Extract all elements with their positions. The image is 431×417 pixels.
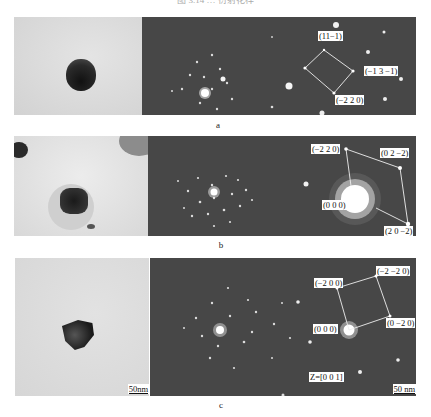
hkl-label: (0 0 0) bbox=[322, 200, 347, 210]
panel-caption-c: c bbox=[211, 400, 231, 410]
hkl-label: (−2 0 0) bbox=[314, 278, 343, 288]
hkl-label: (11−1) bbox=[318, 31, 343, 41]
particle-b bbox=[60, 188, 88, 214]
hkl-label: (−2 2 0) bbox=[335, 95, 364, 105]
scale-bar-bright-field: 50nm bbox=[128, 384, 149, 394]
panel-caption-a: a bbox=[208, 120, 228, 130]
panel-caption-b: b bbox=[211, 240, 231, 250]
bright-field-image-a bbox=[14, 17, 142, 115]
bright-field-image-b bbox=[14, 136, 148, 236]
diffraction-pattern-c: (−2 0 0) (−2 −2 0) (0 0 0) (0 −2 0) Z=[0… bbox=[150, 258, 416, 396]
hkl-label: (−2 −2 0) bbox=[376, 266, 410, 276]
hkl-label: (2 0 −2) bbox=[384, 226, 413, 236]
hkl-label: (−2 2 0) bbox=[311, 144, 340, 154]
hkl-label: (0 −2 0) bbox=[386, 318, 415, 328]
hkl-label: (0 0 0) bbox=[313, 324, 338, 334]
dark-region-top-right bbox=[119, 136, 148, 156]
particle-a bbox=[66, 59, 96, 91]
small-particle bbox=[87, 224, 95, 229]
particle-c bbox=[62, 320, 94, 350]
diffraction-pattern-b: (−2 2 0) (0 2 −2) (0 0 0) (2 0 −2) bbox=[148, 136, 416, 236]
particle-top-left bbox=[14, 142, 28, 158]
page-header-cropped: 图 3.14 … 衍射花样 bbox=[0, 0, 431, 6]
scale-bar-diffraction: 50 nm bbox=[393, 384, 417, 394]
hkl-label: (0 2 −2) bbox=[380, 148, 409, 158]
bright-field-image-c: 50nm bbox=[15, 258, 149, 396]
hkl-label: (−1 3 −1) bbox=[364, 66, 398, 76]
zone-axis-label: Z=[0 0 1] bbox=[309, 372, 344, 382]
diffraction-pattern-a: (11−1) (−1 3 −1) (−2 2 0) bbox=[142, 17, 416, 115]
